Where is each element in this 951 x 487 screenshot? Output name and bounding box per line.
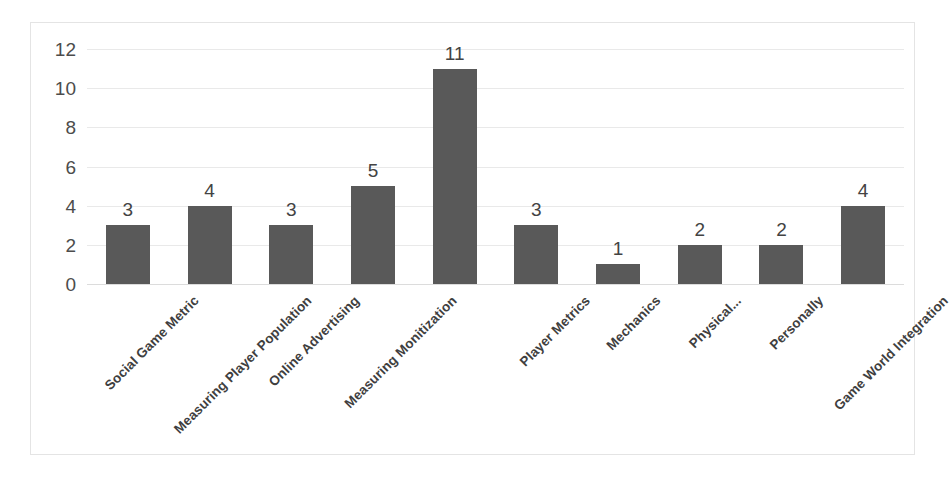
x-axis-category-label: Physical... [686, 293, 744, 351]
x-axis-category-label: Personally [767, 293, 827, 353]
bar[interactable] [596, 264, 640, 284]
x-axis-category-label: Social Game Metric [102, 293, 202, 393]
y-axis-tick-label: 4 [65, 196, 76, 215]
y-axis-tick-label: 6 [65, 157, 76, 176]
bar-slot[interactable]: 4Game World Integration [822, 49, 904, 284]
bar-value-label: 3 [531, 200, 542, 219]
bar-value-label: 3 [123, 200, 134, 219]
bar[interactable] [188, 206, 232, 284]
bar-slot[interactable]: 2Personally [741, 49, 823, 284]
bar-slot[interactable]: 4Measuring Player Population [169, 49, 251, 284]
bar-value-label: 1 [613, 239, 624, 258]
bar-slot[interactable]: 5Measuring Monitization [332, 49, 414, 284]
bar[interactable] [351, 186, 395, 284]
bar-slot[interactable]: 11 [414, 49, 496, 284]
bar-value-label: 3 [286, 200, 297, 219]
y-axis-tick-label: 10 [55, 79, 76, 98]
bar-value-label: 11 [445, 44, 465, 63]
bar-slot[interactable]: 1Mechanics [577, 49, 659, 284]
bar[interactable] [678, 245, 722, 284]
x-axis-category-label: Measuring Monitization [341, 293, 459, 411]
bar-value-label: 2 [694, 220, 705, 239]
x-axis-category-label: Game World Integration [831, 293, 951, 413]
bar-slot[interactable]: 3Social Game Metric [87, 49, 169, 284]
chart-frame: 121086420 3Social Game Metric4Measuring … [30, 22, 915, 455]
plot-area: 121086420 3Social Game Metric4Measuring … [87, 49, 904, 284]
bar-value-label: 5 [368, 161, 379, 180]
bar[interactable] [759, 245, 803, 284]
bar-slot[interactable]: 3Player Metrics [496, 49, 578, 284]
y-axis-tick-label: 12 [55, 40, 76, 59]
axis-baseline [87, 284, 904, 285]
bar[interactable] [433, 69, 477, 284]
bar[interactable] [106, 225, 150, 284]
bar-value-label: 4 [858, 181, 869, 200]
x-axis-category-label: Mechanics [604, 293, 664, 353]
bar-slot[interactable]: 2Physical... [659, 49, 741, 284]
bar-value-label: 2 [776, 220, 787, 239]
bar[interactable] [514, 225, 558, 284]
bar-slot[interactable]: 3Online Advertising [250, 49, 332, 284]
y-axis-tick-label: 0 [65, 275, 76, 294]
y-axis-tick-label: 2 [65, 235, 76, 254]
x-axis-category-label: Player Metrics [517, 293, 593, 369]
bar[interactable] [269, 225, 313, 284]
x-axis-category-label: Online Advertising [266, 293, 362, 389]
bar-value-label: 4 [204, 181, 215, 200]
bar[interactable] [841, 206, 885, 284]
y-axis-tick-label: 8 [65, 118, 76, 137]
